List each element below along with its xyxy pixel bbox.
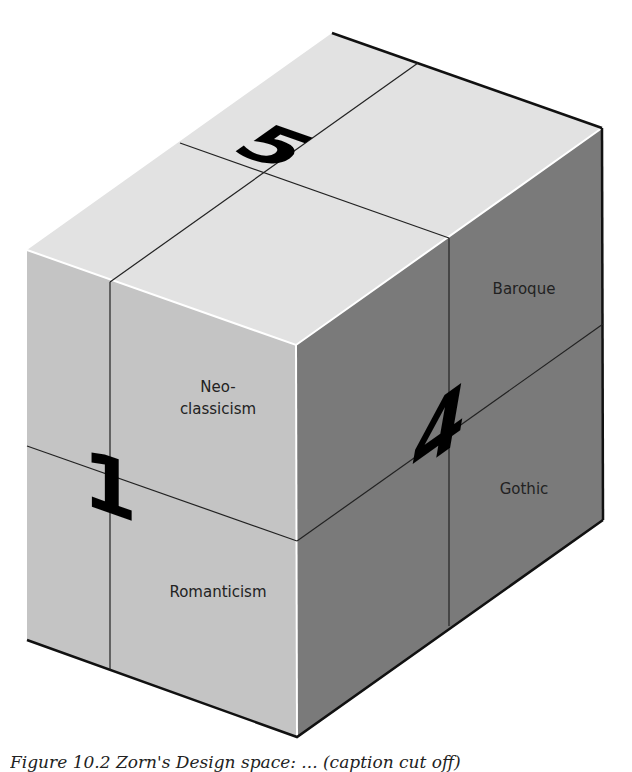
number-1-text: 1 (83, 431, 137, 541)
label-gothic: Gothic (500, 480, 549, 498)
label-romanticism: Romanticism (169, 583, 266, 601)
number-1: 1 (83, 431, 137, 541)
label-baroque: Baroque (493, 280, 556, 298)
label-neoclassicism-line2: classicism (180, 400, 256, 418)
figure-caption: Figure 10.2 Zorn's Design space: ... (ca… (10, 752, 630, 772)
label-neoclassicism-line1: Neo- (200, 378, 235, 396)
